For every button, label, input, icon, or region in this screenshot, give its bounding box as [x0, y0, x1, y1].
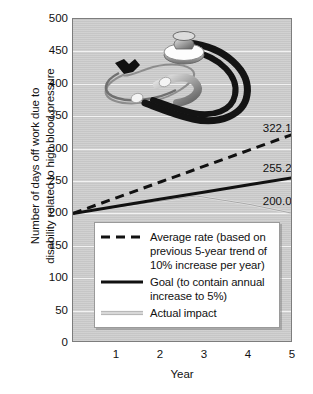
x-tick-label: 5 [282, 348, 302, 360]
y-tick-label: 100 [34, 271, 68, 283]
solid-line-icon [100, 275, 144, 289]
y-tick-label: 150 [34, 239, 68, 251]
series-actual-impact [73, 196, 292, 213]
value-label-goal: 255.25 [263, 162, 292, 174]
dashed-line-icon [100, 230, 144, 244]
value-label-average: 322.10 [263, 122, 292, 134]
chart-figure: Number of days off work due to disabilit… [0, 0, 313, 394]
legend: Average rate (based on previous 5-year t… [94, 222, 280, 328]
y-tick-label: 450 [34, 44, 68, 56]
series-average-rate [73, 134, 292, 213]
legend-line: 10% increase per year) [150, 258, 267, 272]
y-tick-label: 50 [34, 304, 68, 316]
thin-light-line-icon [100, 306, 144, 320]
y-tick-label: 200 [34, 206, 68, 218]
legend-line: Goal (to contain annual [150, 275, 265, 289]
y-tick-label: 400 [34, 77, 68, 89]
legend-item-goal: Goal (to contain annual increase to 5%) [100, 275, 273, 303]
legend-label-goal: Goal (to contain annual increase to 5%) [150, 275, 265, 303]
legend-line: previous 5-year trend of [150, 244, 267, 258]
x-axis-title: Year [72, 368, 292, 380]
x-tick-label: 1 [106, 348, 126, 360]
legend-item-average-rate: Average rate (based on previous 5-year t… [100, 230, 273, 272]
x-tick-label: 4 [238, 348, 258, 360]
legend-label-actual-impact: Actual impact [150, 306, 217, 320]
y-tick-label: 500 [34, 12, 68, 24]
x-tick-label: 3 [194, 348, 214, 360]
plot-area: 322.10 255.25 200.00 Average rate (based… [72, 18, 292, 342]
legend-line: increase to 5%) [150, 289, 265, 303]
legend-line: Average rate (based on [150, 230, 267, 244]
y-tick-label: 0 [34, 336, 68, 348]
legend-item-actual-impact: Actual impact [100, 306, 273, 320]
series-goal [73, 178, 292, 214]
y-tick-label: 250 [34, 174, 68, 186]
value-label-actual: 200.00 [263, 195, 292, 207]
y-tick-label: 350 [34, 109, 68, 121]
legend-label-average-rate: Average rate (based on previous 5-year t… [150, 230, 267, 272]
y-axis-tick-labels: 050100150200250300350400450500 [30, 0, 68, 394]
x-tick-label: 2 [150, 348, 170, 360]
legend-line: Actual impact [150, 306, 217, 320]
y-tick-label: 300 [34, 142, 68, 154]
